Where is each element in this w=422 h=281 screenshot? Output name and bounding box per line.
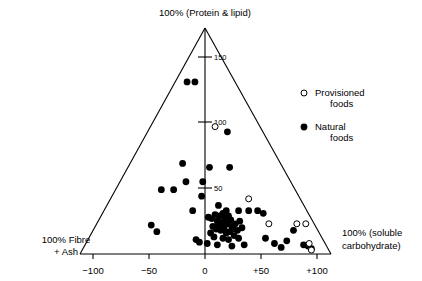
data-point bbox=[239, 224, 246, 231]
data-point bbox=[170, 186, 177, 193]
data-point bbox=[236, 218, 243, 225]
data-point bbox=[215, 202, 222, 209]
legend-label-natural-line2: foods bbox=[330, 132, 353, 143]
legend-marker-natural-icon bbox=[301, 124, 308, 131]
data-point bbox=[262, 235, 269, 242]
y-tick-label-150: 150 bbox=[214, 53, 227, 62]
data-point bbox=[303, 221, 309, 227]
data-point bbox=[260, 210, 267, 217]
right-corner-label-line2: carbohydrate) bbox=[342, 240, 401, 251]
data-point bbox=[308, 247, 314, 253]
x-tick-label--50: −50 bbox=[141, 265, 157, 276]
data-point bbox=[271, 240, 278, 247]
data-point bbox=[199, 178, 206, 185]
data-point bbox=[148, 222, 155, 229]
y-tick-label-50: 50 bbox=[214, 184, 222, 193]
left-corner-label-line2: + Ash bbox=[54, 246, 78, 257]
apex-label: 100% (Protein & lipid) bbox=[159, 7, 251, 18]
data-point bbox=[235, 235, 242, 242]
x-tick-label-50: +50 bbox=[253, 265, 269, 276]
ternary-scatter-figure: 150 100 50 −100 −50 0 +50 +100 100% (Pro… bbox=[0, 0, 422, 281]
data-point bbox=[225, 236, 232, 243]
data-point bbox=[206, 164, 213, 171]
right-corner-label-line1: 100% (soluble bbox=[342, 227, 402, 238]
data-point bbox=[278, 244, 285, 251]
data-point bbox=[246, 196, 252, 202]
data-point bbox=[224, 128, 231, 135]
left-corner-label-line1: 100% Fibre bbox=[42, 234, 91, 245]
data-point bbox=[153, 228, 160, 235]
data-point bbox=[294, 221, 300, 227]
data-point bbox=[158, 186, 165, 193]
data-point bbox=[235, 207, 242, 214]
data-point bbox=[184, 79, 191, 86]
x-tick-marks bbox=[93, 254, 317, 259]
x-tick-label-100: +100 bbox=[306, 265, 327, 276]
x-tick-label-0: 0 bbox=[202, 265, 207, 276]
triangle-left-edge bbox=[80, 28, 205, 254]
data-point bbox=[196, 239, 203, 246]
data-point bbox=[228, 243, 235, 250]
legend-marker-provisioned-icon bbox=[301, 90, 307, 96]
series-natural-foods bbox=[148, 79, 315, 253]
legend-label-provisioned-line2: foods bbox=[330, 98, 353, 109]
data-point bbox=[211, 234, 218, 241]
data-point bbox=[283, 237, 290, 244]
data-point bbox=[179, 160, 186, 167]
data-point bbox=[189, 207, 196, 214]
data-point bbox=[204, 240, 211, 247]
data-point bbox=[212, 124, 218, 130]
data-point bbox=[226, 164, 233, 171]
data-point bbox=[306, 240, 312, 246]
legend-label-natural-line1: Natural bbox=[315, 121, 346, 132]
data-point bbox=[183, 178, 190, 185]
data-point bbox=[214, 241, 221, 248]
data-point bbox=[241, 241, 248, 248]
x-tick-label--100: −100 bbox=[82, 265, 103, 276]
data-point bbox=[192, 79, 199, 86]
legend-label-provisioned-line1: Provisioned bbox=[315, 87, 365, 98]
plot-svg: 150 100 50 −100 −50 0 +50 +100 100% (Pro… bbox=[0, 0, 422, 281]
legend: Provisioned foods Natural foods bbox=[301, 87, 365, 143]
data-point bbox=[266, 221, 272, 227]
data-point bbox=[245, 207, 252, 214]
data-point bbox=[290, 227, 297, 234]
data-point bbox=[198, 193, 205, 200]
